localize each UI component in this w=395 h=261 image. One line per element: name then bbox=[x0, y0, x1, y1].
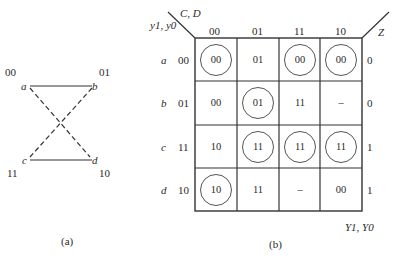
col-header: 11 bbox=[294, 26, 305, 37]
row-code: 01 bbox=[178, 98, 189, 109]
table-cell: 00 bbox=[195, 81, 237, 124]
table-cell: 10 bbox=[195, 125, 237, 168]
row-output: 1 bbox=[367, 185, 373, 196]
table-cell: – bbox=[279, 168, 321, 211]
table-cell: 11 bbox=[320, 125, 362, 168]
col-header: 00 bbox=[209, 26, 220, 37]
table-cell: 11 bbox=[279, 81, 321, 124]
row-output: 1 bbox=[367, 142, 373, 153]
table-cell: 00 bbox=[195, 38, 237, 81]
row-output: 0 bbox=[367, 55, 373, 66]
table-cell: 00 bbox=[320, 38, 362, 81]
row-state: b bbox=[161, 98, 167, 109]
table-cell: 00 bbox=[320, 168, 362, 211]
row-state: a bbox=[161, 55, 167, 66]
table-cell: 10 bbox=[195, 168, 237, 211]
state-vars-label: y1, y0 bbox=[150, 20, 176, 31]
caption-b: (b) bbox=[269, 239, 282, 250]
table-cell: – bbox=[320, 81, 362, 124]
row-code: 00 bbox=[178, 55, 189, 66]
col-header: 01 bbox=[252, 26, 263, 37]
table-cell: 01 bbox=[237, 38, 279, 81]
next-state-label: Y1, Y0 bbox=[345, 222, 374, 233]
table-cell: 00 bbox=[279, 38, 321, 81]
table-cell: 11 bbox=[279, 125, 321, 168]
row-code: 11 bbox=[178, 142, 189, 153]
table-cell: 11 bbox=[237, 125, 279, 168]
table-cell: 11 bbox=[237, 168, 279, 211]
row-code: 10 bbox=[178, 185, 189, 196]
output-label: Z bbox=[378, 27, 384, 38]
row-output: 0 bbox=[367, 98, 373, 109]
input-vars-label: C, D bbox=[180, 8, 201, 19]
row-state: d bbox=[161, 185, 167, 196]
table-cell: 01 bbox=[237, 81, 279, 124]
col-header: 10 bbox=[335, 26, 346, 37]
row-state: c bbox=[161, 142, 166, 153]
